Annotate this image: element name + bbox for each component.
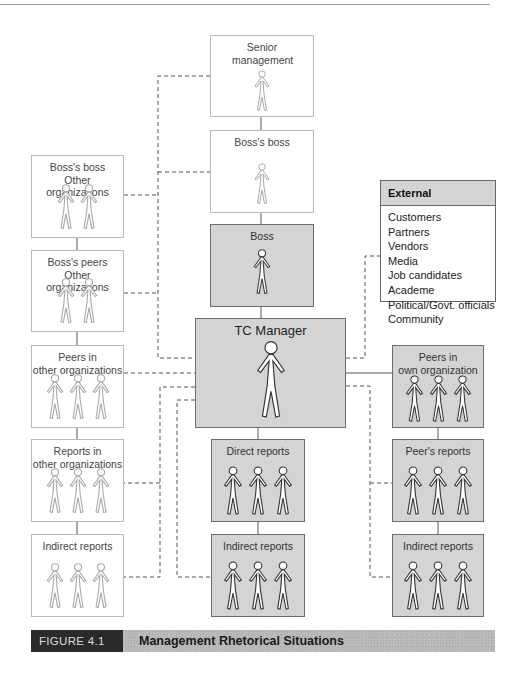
node-label: Indirect reports (32, 540, 123, 553)
people-group (32, 277, 123, 325)
people-group (32, 183, 123, 231)
person-icon (78, 277, 100, 325)
person-icon (67, 562, 89, 610)
person-icon (67, 467, 89, 515)
person-icon (252, 70, 272, 112)
node-boss: Boss (210, 224, 314, 307)
person-icon (90, 467, 112, 515)
node-label: Indirect reports (393, 540, 483, 553)
figure-caption: FIGURE 4.1 Management Rhetorical Situati… (31, 630, 495, 652)
label-line-2: own organization (398, 364, 477, 376)
people-group (393, 561, 483, 611)
people-group (196, 339, 345, 421)
person-icon (451, 375, 474, 423)
person-icon (427, 375, 450, 423)
person-icon (78, 183, 100, 231)
node-label: Indirect reports (212, 540, 304, 553)
person-icon (90, 562, 112, 610)
people-group (393, 375, 483, 423)
people-group (211, 160, 313, 208)
people-group (32, 562, 123, 610)
people-group (393, 466, 483, 516)
node-label: Peers inown organization (393, 351, 483, 376)
node-bosss-peers-other-orgs: Boss's peersOther organizations (31, 250, 124, 332)
node-bosss-boss-other-orgs: Boss's bossOther organizations (31, 155, 124, 238)
person-icon (44, 373, 66, 421)
node-bosss-boss: Boss's boss (210, 130, 314, 213)
node-senior-management: Senior management (210, 35, 314, 117)
person-icon (426, 466, 450, 516)
person-icon (90, 373, 112, 421)
external-item: Customers (388, 210, 495, 225)
people-group (32, 373, 123, 421)
person-icon (451, 466, 475, 516)
label-line-1: Boss's peers (48, 256, 108, 268)
people-group (212, 466, 304, 516)
people-group (211, 70, 313, 112)
node-label: TC Manager (196, 325, 345, 338)
external-item: Job candidates (388, 268, 495, 283)
node-peers-reports: Peer's reports (392, 439, 484, 522)
label-line-1: Boss's boss (50, 161, 106, 173)
node-peers-other-orgs: Peers inother organizations (31, 345, 124, 428)
person-icon (246, 466, 270, 516)
person-icon (403, 375, 426, 423)
figure-title: Management Rhetorical Situations (139, 630, 344, 652)
person-icon (44, 467, 66, 515)
person-icon (246, 561, 270, 611)
person-icon (221, 561, 245, 611)
person-icon (221, 466, 245, 516)
node-indirect-reports-left: Indirect reports (31, 534, 124, 617)
external-list: Customers Partners Vendors Media Job can… (381, 210, 495, 327)
external-item: Political/Govt. officials (388, 298, 495, 313)
node-label: Boss (211, 230, 313, 243)
people-group (32, 467, 123, 515)
node-label: Boss's boss (211, 136, 313, 149)
person-icon (252, 339, 290, 421)
external-item: Academe (388, 283, 495, 298)
node-label: Direct reports (212, 445, 304, 458)
external-item: Media (388, 254, 495, 269)
node-direct-reports: Direct reports (211, 439, 305, 522)
node-label: Senior management (232, 41, 292, 66)
person-icon (252, 160, 272, 208)
people-group (211, 248, 313, 296)
person-icon (401, 466, 425, 516)
person-icon (451, 561, 475, 611)
person-icon (55, 277, 77, 325)
label-line-1: Peers in (419, 351, 458, 363)
node-label: Peer's reports (393, 445, 483, 458)
person-icon (44, 562, 66, 610)
person-icon (271, 561, 295, 611)
external-stakeholders-box: External Customers Partners Vendors Medi… (380, 180, 496, 302)
external-header: External (381, 181, 495, 206)
person-icon (426, 561, 450, 611)
person-icon (401, 561, 425, 611)
node-peers-own-org: Peers inown organization (392, 345, 484, 428)
node-tc-manager: TC Manager (195, 318, 346, 428)
person-icon (271, 466, 295, 516)
people-group (212, 561, 304, 611)
figure-number: FIGURE 4.1 (31, 630, 123, 652)
external-item: Community (388, 312, 495, 327)
person-icon (55, 183, 77, 231)
label-line-1: Reports in (54, 445, 102, 457)
person-icon (251, 248, 273, 296)
node-indirect-reports-right: Indirect reports (392, 534, 484, 617)
person-icon (67, 373, 89, 421)
node-reports-other-orgs: Reports inother organizations (31, 439, 124, 522)
external-item: Vendors (388, 239, 495, 254)
node-indirect-reports-center: Indirect reports (211, 534, 305, 617)
external-item: Partners (388, 225, 495, 240)
label-line-1: Peers in (58, 351, 97, 363)
